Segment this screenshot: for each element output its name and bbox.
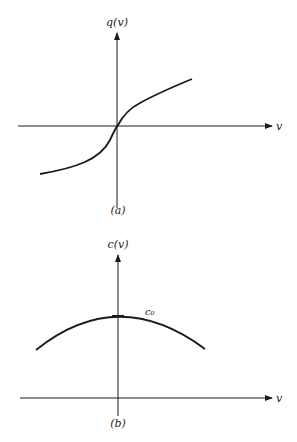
caption-b: (b) <box>110 417 126 430</box>
peak-label: c₀ <box>145 306 155 317</box>
caption-a: (a) <box>110 204 125 217</box>
x-axis-label: v <box>276 392 283 405</box>
panel-a: q(v) v (a) <box>18 16 283 217</box>
panel-b: c(v) v c₀ (b) <box>20 238 283 430</box>
c-curve <box>36 317 205 350</box>
y-axis-label: q(v) <box>106 16 128 29</box>
x-axis-label: v <box>276 120 283 133</box>
figure: q(v) v (a) c(v) v c₀ (b) <box>0 0 297 442</box>
y-axis-label: c(v) <box>108 238 129 251</box>
